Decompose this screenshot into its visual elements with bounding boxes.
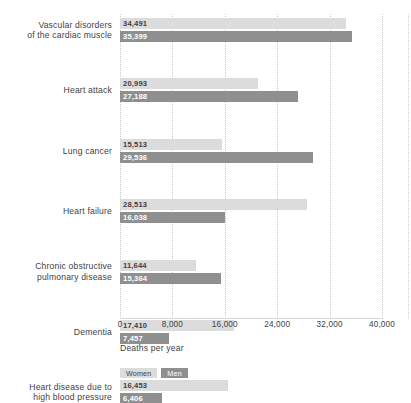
x-tick-label: 16,000: [212, 320, 238, 329]
bar-row: Heart disease due tohigh blood pressure1…: [0, 197, 411, 227]
bar-rows: Vascular disordersof the cardiac muscle3…: [0, 14, 411, 319]
category-label: Heart disease due tohigh blood pressure: [0, 382, 112, 403]
bar-fill: [120, 31, 352, 42]
bar-row: Heart failure28,51316,038: [0, 107, 411, 137]
x-tick-label: 8,000: [162, 320, 183, 329]
x-axis-tick-labels: 08,00016,00024,00032,00040,000: [0, 320, 411, 334]
x-tick-label: 0: [118, 320, 123, 329]
category-label-line: of the cardiac muscle: [0, 30, 112, 41]
bar-row: Dementia17,4107,457: [0, 167, 411, 197]
x-axis-title: Deaths per year: [120, 343, 184, 353]
bar-row: Lung cancer15,51329,536: [0, 76, 411, 106]
deaths-per-year-bar-chart: Vascular disordersof the cardiac muscle3…: [0, 0, 411, 403]
category-label-line: Heart disease due to: [0, 382, 112, 393]
legend-item-women[interactable]: Women: [120, 368, 157, 378]
bar-row: Heart attack20,99327,188: [0, 46, 411, 76]
category-label-line: high blood pressure: [0, 392, 112, 403]
bar-row: Vascular disordersof the cardiac muscle3…: [0, 16, 411, 46]
x-tick-label: 24,000: [264, 320, 290, 329]
bar-row: Colorectal cancer8,3218,578: [0, 258, 411, 288]
category-label-line: Vascular disorders: [0, 20, 112, 31]
bar-row: Stroke10,6216,132: [0, 288, 411, 318]
bar-row: Chronic obstructivepulmonary disease11,6…: [0, 137, 411, 167]
bar-value-label: 16,453: [123, 380, 147, 391]
bar-fill: [120, 18, 346, 29]
chart-legend: WomenMen: [120, 368, 188, 378]
plot-area: Vascular disordersof the cardiac muscle3…: [0, 14, 411, 319]
legend-item-men[interactable]: Men: [161, 368, 187, 378]
bar-value-label: 35,399: [123, 31, 147, 42]
x-tick-label: 32,000: [317, 320, 343, 329]
bar-value-label: 34,491: [123, 18, 147, 29]
x-tick-label: 40,000: [369, 320, 395, 329]
x-axis-line: [120, 318, 382, 319]
category-label: Vascular disordersof the cardiac muscle: [0, 20, 112, 41]
bar-row: Breast cancer17,670: [0, 227, 411, 257]
bar-value-label: 6,406: [123, 393, 143, 403]
